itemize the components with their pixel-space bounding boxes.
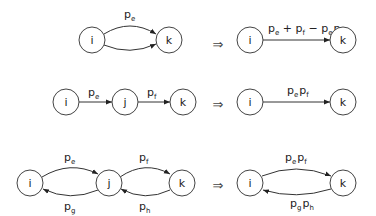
implies-arrow: ⇒ <box>213 178 224 193</box>
edge-label-pe: pe <box>64 151 75 166</box>
edge-label-pgph: pgph <box>290 197 314 212</box>
node-i: i <box>17 170 43 196</box>
node-i: i <box>79 27 105 53</box>
rule-bidirectional-before: pe pg pf ph i j k <box>17 151 195 215</box>
edge-k-i <box>263 189 331 195</box>
node-k: k <box>330 170 356 196</box>
node-i: i <box>237 89 263 115</box>
edge-label-ph: ph <box>139 200 150 215</box>
svg-text:i: i <box>248 96 251 109</box>
svg-text:k: k <box>340 177 347 190</box>
svg-text:k: k <box>180 96 187 109</box>
node-i: i <box>53 89 79 115</box>
node-i: i <box>237 27 263 53</box>
edge-label-pg: pg <box>64 200 75 215</box>
rule-bidirectional-after: pepf pgph i k <box>237 151 356 212</box>
node-k: k <box>170 89 196 115</box>
implies-arrow: ⇒ <box>213 97 224 112</box>
edge-i-k <box>262 169 331 176</box>
reduction-rules-diagram: pe i k ⇒ pe + pf − pepf i k pe pf i j k … <box>0 0 376 216</box>
node-k: k <box>156 27 182 53</box>
edge-k-j <box>121 189 170 196</box>
node-j: j <box>96 170 122 196</box>
svg-text:k: k <box>179 177 186 190</box>
implies-arrow: ⇒ <box>213 37 224 52</box>
svg-text:j: j <box>122 96 126 109</box>
edge-label-pepf: pepf <box>285 151 307 166</box>
edge-j-i <box>43 189 98 196</box>
svg-text:k: k <box>166 34 173 47</box>
svg-text:i: i <box>28 177 31 190</box>
edge-label-pe: pe <box>88 86 99 101</box>
svg-text:i: i <box>248 177 251 190</box>
node-i: i <box>237 170 263 196</box>
node-k: k <box>330 27 356 53</box>
rule-parallel-before: pe i k <box>79 8 182 53</box>
svg-text:i: i <box>248 34 251 47</box>
rule-series-before: pe pf i j k <box>53 86 196 115</box>
svg-text:j: j <box>106 177 110 190</box>
rule-parallel-after: pe + pf − pepf i k <box>237 22 356 53</box>
edge-j-k <box>120 168 170 177</box>
node-j: j <box>112 89 138 115</box>
edge-i-k-upper <box>104 26 156 34</box>
svg-text:k: k <box>340 96 347 109</box>
svg-text:i: i <box>64 96 67 109</box>
edge-i-j <box>42 168 98 177</box>
edge-i-k-lower <box>104 44 156 50</box>
edge-label-pf: pf <box>147 86 157 101</box>
node-k: k <box>330 89 356 115</box>
edge-label-pe: pe <box>124 8 135 23</box>
node-k: k <box>169 170 195 196</box>
svg-text:k: k <box>340 34 347 47</box>
rule-series-after: pepf i k <box>237 84 356 115</box>
edge-label-pf: pf <box>139 151 149 166</box>
edge-label-pepf: pepf <box>287 84 309 99</box>
svg-text:i: i <box>90 34 93 47</box>
